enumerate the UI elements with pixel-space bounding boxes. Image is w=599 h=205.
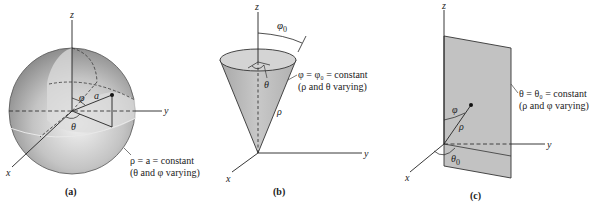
plane-description-line2: (ρ and φ varying): [519, 100, 589, 112]
cone-description-line2: (ρ and θ varying): [298, 81, 367, 93]
x-axis-b: [232, 153, 258, 172]
radius-a-label: a: [94, 90, 99, 101]
phi-label-c: φ: [452, 104, 458, 115]
sphere-description-line1: ρ = a = constant: [130, 155, 194, 166]
y-axis-label: y: [163, 105, 169, 116]
x-axis-label-b: x: [225, 173, 231, 184]
y-axis-label-b: y: [363, 148, 369, 159]
theta-label-b: θ: [264, 79, 269, 90]
caption-c: (c): [470, 190, 481, 202]
caption-b: (b): [273, 186, 285, 198]
y-axis-label-c: y: [546, 139, 552, 150]
z-axis-label-c: z: [441, 0, 446, 11]
theta-label: θ: [71, 121, 76, 132]
panel-c-half-plane: z y x φ ρ θ0 θ = θ₀ = constant (ρ and φ …: [404, 0, 589, 202]
rho-label-b: ρ: [276, 106, 282, 117]
phi0-label: φ0: [277, 19, 287, 34]
caption-a: (a): [65, 186, 77, 198]
spherical-coordinates-figure: z y x φ a θ ρ = a = constant (θ and φ va…: [0, 0, 599, 205]
z-axis-label: z: [69, 9, 74, 20]
x-axis-label: x: [5, 167, 11, 178]
x-axis-c: [410, 144, 444, 172]
plane-description-line1: θ = θ₀ = constant: [519, 88, 587, 99]
phi-label: φ: [79, 92, 85, 103]
z-axis-label-b: z: [254, 1, 259, 12]
panel-b-cone: z y x φ0 θ ρ φ = φ₀ = constant (ρ and θ …: [220, 1, 369, 198]
panel-a-sphere: z y x φ a θ ρ = a = constant (θ and φ va…: [5, 9, 200, 198]
x-axis-label-c: x: [404, 172, 410, 183]
sphere-description-line2: (θ and φ varying): [130, 167, 200, 179]
rho-label-c: ρ: [458, 121, 464, 132]
cone-description-line1: φ = φ₀ = constant: [298, 69, 368, 80]
